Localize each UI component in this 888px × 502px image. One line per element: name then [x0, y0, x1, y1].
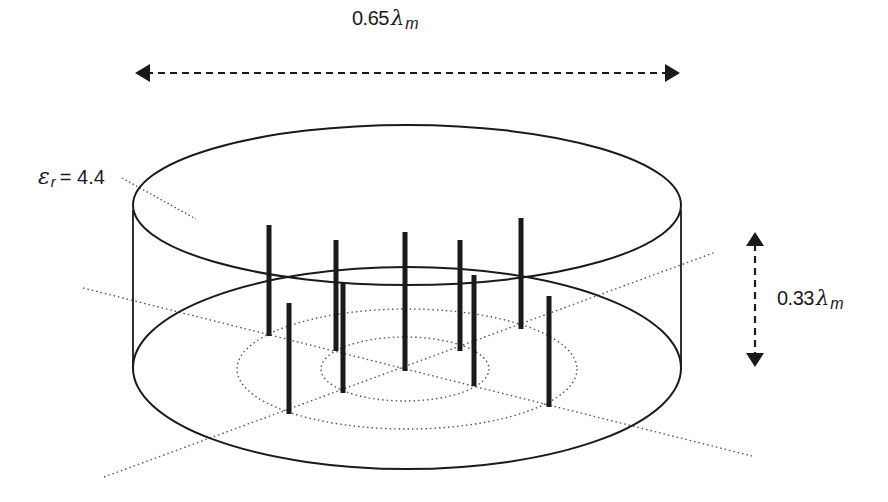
- height-dimension-arrow: [746, 232, 764, 367]
- height-label: 0.33λm: [777, 286, 844, 310]
- epsilon-symbol: ε: [38, 164, 50, 189]
- pin-center: [403, 232, 408, 371]
- axis-line-x: [83, 288, 752, 456]
- antenna-diagram: 0.65λm 0.33λm εr= 4.4: [0, 0, 888, 502]
- height-value: 0.33: [777, 287, 814, 309]
- arrowhead-left-icon: [135, 64, 150, 82]
- pin: [341, 282, 346, 393]
- width-label: 0.65λm: [352, 6, 419, 30]
- width-value: 0.65: [352, 7, 389, 29]
- height-subscript: m: [830, 295, 843, 312]
- lambda-symbol: λ: [816, 286, 829, 310]
- monopole-pins: [267, 218, 552, 414]
- permittivity-subscript: r: [51, 173, 56, 190]
- arrowhead-up-icon: [746, 232, 764, 246]
- permittivity-value: = 4.4: [60, 166, 105, 188]
- pin: [519, 218, 524, 329]
- pin: [472, 275, 477, 386]
- permittivity-label: εr= 4.4: [38, 164, 105, 189]
- pin: [287, 303, 292, 414]
- pin: [547, 296, 552, 407]
- pin: [267, 225, 272, 336]
- arrowhead-down-icon: [746, 353, 764, 367]
- lambda-symbol: λ: [391, 6, 404, 30]
- pin: [334, 240, 339, 351]
- diagram-canvas: [0, 0, 888, 502]
- arrowhead-right-icon: [665, 64, 680, 82]
- width-dimension-arrow: [135, 64, 680, 82]
- pin: [458, 240, 463, 351]
- width-subscript: m: [405, 15, 418, 32]
